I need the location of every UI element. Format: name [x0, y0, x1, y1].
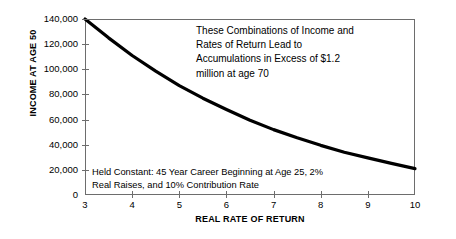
y-tick-label: 0 — [26, 190, 78, 200]
annotation-line: Real Raises, and 10% Contribution Rate — [92, 179, 412, 192]
x-tick-label: 8 — [301, 200, 341, 210]
held-constant-annotation: Held Constant: 45 Year Career Beginning … — [92, 166, 412, 192]
x-tick-label: 3 — [65, 200, 105, 210]
annotation-line: million at age 70 — [196, 67, 411, 81]
x-tick-mark — [368, 191, 369, 198]
x-tick-mark — [179, 191, 180, 198]
y-tick-label: 60,000 — [26, 115, 78, 125]
annotation-line: Rates of Return Lead to — [196, 38, 411, 52]
x-tick-label: 7 — [254, 200, 294, 210]
annotation-line: Accumulations in Excess of $1.2 — [196, 52, 411, 66]
annotation-line: Held Constant: 45 Year Career Beginning … — [92, 166, 412, 179]
y-tick-label: 120,000 — [26, 39, 78, 49]
y-tick-label: 100,000 — [26, 65, 78, 75]
y-tick-mark — [82, 170, 89, 171]
x-tick-label: 5 — [159, 200, 199, 210]
x-tick-mark — [321, 191, 322, 198]
x-axis-title: REAL RATE OF RETURN — [85, 214, 415, 224]
y-tick-mark — [82, 69, 89, 70]
y-tick-label: 80,000 — [26, 90, 78, 100]
annotation-line: These Combinations of Income and — [196, 24, 411, 38]
x-tick-mark — [274, 191, 275, 198]
y-tick-label: 140,000 — [26, 14, 78, 24]
x-tick-mark — [132, 191, 133, 198]
x-tick-mark — [226, 191, 227, 198]
y-tick-mark — [82, 120, 89, 121]
y-tick-mark — [82, 145, 89, 146]
y-tick-mark — [82, 44, 89, 45]
x-tick-label: 6 — [206, 200, 246, 210]
chart-figure: INCOME AT AGE 50 020,00040,00060,00080,0… — [0, 0, 456, 239]
y-tick-label: 20,000 — [26, 165, 78, 175]
x-tick-label: 10 — [395, 200, 435, 210]
x-tick-label: 9 — [348, 200, 388, 210]
y-tick-mark — [82, 19, 89, 20]
x-axis-tick-labels: 345678910 — [85, 200, 415, 214]
y-tick-label: 40,000 — [26, 140, 78, 150]
y-tick-mark — [82, 94, 89, 95]
excess-callout-annotation: These Combinations of Income andRates of… — [196, 24, 411, 81]
x-tick-label: 4 — [112, 200, 152, 210]
